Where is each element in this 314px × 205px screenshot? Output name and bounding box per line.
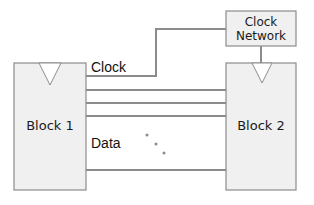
block-diagram: Block 1 Block 2 Clock Network Clock Data xyxy=(0,0,314,205)
block-1-label: Block 1 xyxy=(26,118,74,133)
clock-network-box: Clock Network xyxy=(226,11,296,46)
data-ellipsis-dots xyxy=(146,134,166,155)
clock-network-label-line2: Network xyxy=(236,29,286,43)
block-1: Block 1 xyxy=(14,63,86,190)
clock-network-label-line1: Clock xyxy=(245,15,278,29)
clock-wire-label: Clock xyxy=(91,59,127,75)
block-2-label: Block 2 xyxy=(237,118,285,133)
block-2: Block 2 xyxy=(226,63,296,190)
data-wire-label: Data xyxy=(91,135,121,151)
